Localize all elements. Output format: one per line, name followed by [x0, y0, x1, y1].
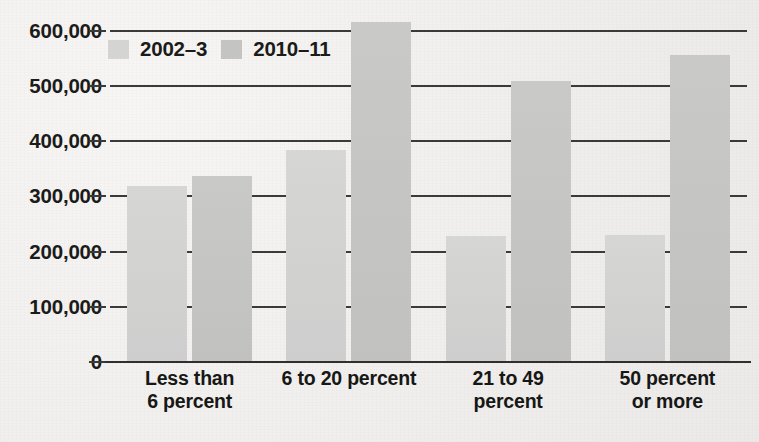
chart-legend: 2002–32010–11 [108, 39, 331, 60]
bar [192, 176, 252, 362]
category-label-line: or more [588, 390, 747, 413]
category-label: Less than6 percent [110, 367, 269, 413]
legend-item: 2010–11 [221, 39, 330, 60]
y-axis-tick-mark [89, 30, 106, 32]
y-axis-tick-mark [89, 140, 106, 142]
plot-area [110, 14, 747, 362]
legend-label: 2002–3 [140, 39, 207, 60]
chart-screenshot: 0100,000200,000300,000400,000500,000600,… [0, 0, 759, 442]
bar [351, 22, 411, 362]
legend-item: 2002–3 [108, 39, 207, 60]
y-axis-tick-label: 400,000 [2, 131, 102, 152]
y-axis-tick-mark [89, 251, 106, 253]
category-label-line: 6 percent [110, 390, 269, 413]
y-axis-tick-mark [89, 306, 106, 308]
category-label-line: Less than [110, 367, 269, 390]
grouped-bar-chart: 0100,000200,000300,000400,000500,000600,… [0, 0, 759, 442]
y-axis-tick-mark [89, 195, 106, 197]
category-label-line: 6 to 20 percent [269, 367, 428, 390]
bar [446, 236, 506, 362]
category-label: 50 percentor more [588, 367, 747, 413]
category-label: 21 to 49percent [429, 367, 588, 413]
y-axis-tick-mark [89, 361, 106, 363]
bars [110, 14, 747, 362]
bar [511, 81, 571, 362]
category-label-line: 50 percent [588, 367, 747, 390]
y-axis-tick-label: 600,000 [2, 20, 102, 41]
legend-swatch-icon [221, 40, 242, 59]
bar [605, 235, 665, 362]
x-axis-category-labels: Less than6 percent6 to 20 percent21 to 4… [110, 367, 747, 437]
y-axis-tick-mark [89, 85, 106, 87]
y-axis-tick-label: 200,000 [2, 241, 102, 262]
y-axis-tick-label: 0 [2, 352, 102, 373]
y-axis-tick-label: 300,000 [2, 186, 102, 207]
category-label-line: 21 to 49 [429, 367, 588, 390]
y-axis-tick-label: 100,000 [2, 297, 102, 318]
bar [286, 150, 346, 362]
legend-swatch-icon [108, 40, 129, 59]
bar [670, 55, 730, 362]
category-label-line: percent [429, 390, 588, 413]
legend-label: 2010–11 [253, 39, 330, 60]
category-label: 6 to 20 percent [269, 367, 428, 390]
y-axis: 0100,000200,000300,000400,000500,000600,… [0, 14, 102, 362]
x-axis-line [105, 361, 751, 363]
bar [127, 186, 187, 362]
y-axis-tick-label: 500,000 [2, 76, 102, 97]
